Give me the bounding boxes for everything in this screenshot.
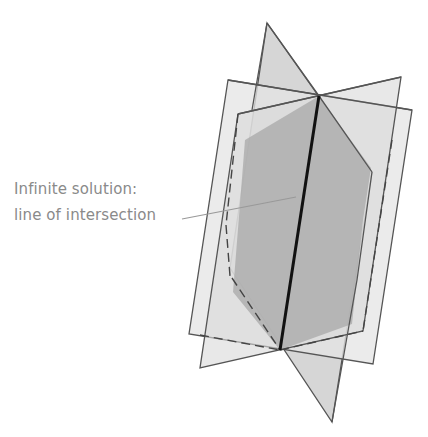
- label-infinite-solution: Infinite solution:: [14, 180, 137, 198]
- label-line-of-intersection: line of intersection: [14, 206, 156, 224]
